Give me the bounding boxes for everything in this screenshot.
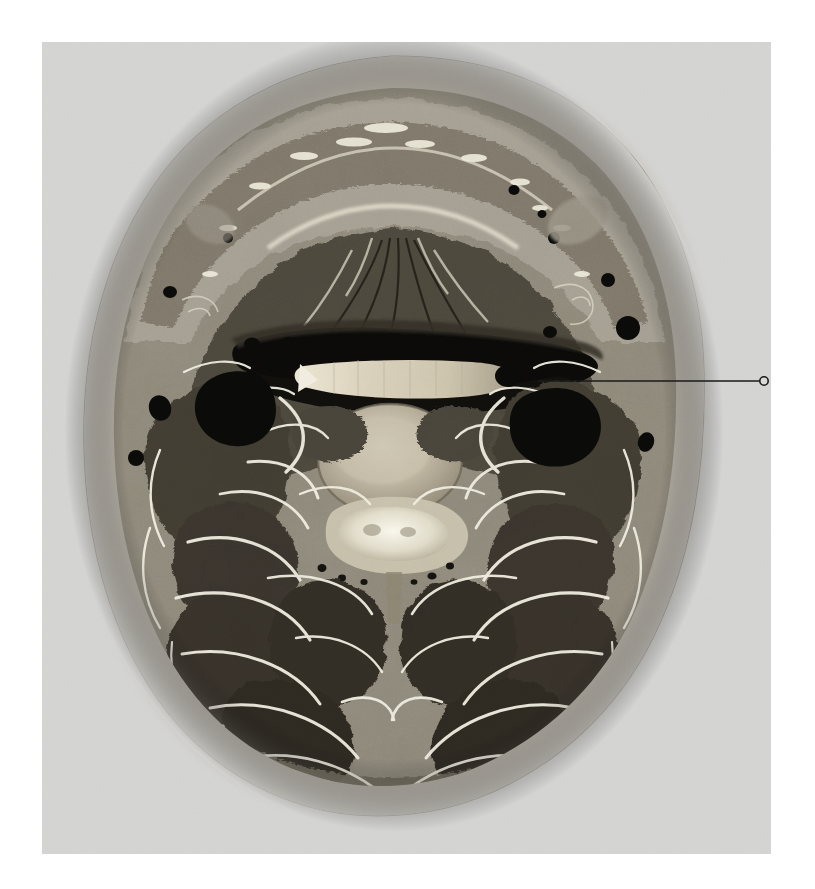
page-title: Axial cross-section of the neck [0,0,1,1]
specimen-orientation: anterior at top, posterior at bottom [0,0,1,1]
leader-marker-circle[interactable] [760,377,768,385]
anatomical-plate [42,42,771,854]
specimen-description: Photographic transverse (axial) anatomic… [0,0,1,1]
page-root: Axial cross-section of the neck Photogra… [0,0,815,889]
specimen-edge-fade [64,42,724,832]
annotation-target: carotid-sheath-right [0,0,1,1]
cross-section-figure [42,42,771,854]
